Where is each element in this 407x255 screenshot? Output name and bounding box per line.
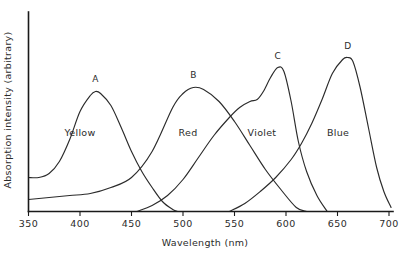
x-tick-label: 550 <box>225 218 244 229</box>
absorption-curve-c <box>137 67 328 212</box>
peak-label-c: C <box>275 51 281 61</box>
peak-label-b: B <box>190 70 196 80</box>
chart-canvas: 350400450500550600650700 ABCD YellowRedV… <box>0 0 407 255</box>
axes-group <box>29 12 394 216</box>
x-tick-label: 400 <box>70 218 89 229</box>
absorption-spectra-chart: 350400450500550600650700 ABCD YellowRedV… <box>0 0 407 255</box>
x-tick-label: 450 <box>122 218 141 229</box>
band-label-yellow: Yellow <box>63 127 95 138</box>
x-axis-title: Wavelength (nm) <box>162 237 249 248</box>
x-tick-label: 500 <box>173 218 192 229</box>
x-tick-label: 650 <box>328 218 347 229</box>
band-label-red: Red <box>179 127 198 138</box>
y-axis-title: Absorption intensity (arbitrary) <box>2 31 13 188</box>
peak-label-d: D <box>344 41 351 51</box>
band-labels: YellowRedVioletBlue <box>63 127 349 138</box>
band-label-blue: Blue <box>327 127 349 138</box>
x-tick-label: 350 <box>19 218 38 229</box>
band-label-violet: Violet <box>248 127 277 138</box>
x-tick-labels: 350400450500550600650700 <box>19 218 399 229</box>
x-tick-label: 600 <box>276 218 295 229</box>
peak-labels: ABCD <box>92 41 351 84</box>
absorption-curve-a <box>29 91 178 211</box>
absorption-curve-b <box>29 87 307 211</box>
peak-label-a: A <box>92 74 99 84</box>
x-tick-label: 700 <box>379 218 398 229</box>
